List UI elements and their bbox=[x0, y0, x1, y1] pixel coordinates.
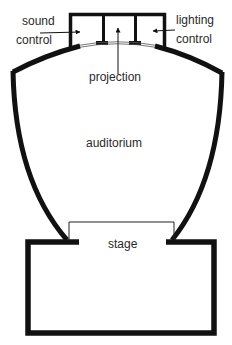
theatre-plan-diagram: sound control lighting control projectio… bbox=[0, 0, 232, 345]
lighting-control-label: control bbox=[176, 32, 212, 46]
sound-control-label: control bbox=[16, 33, 52, 47]
stage-label: stage bbox=[108, 237, 138, 251]
lighting-control-arrow bbox=[153, 30, 175, 31]
auditorium-label: auditorium bbox=[86, 136, 142, 150]
projection-label: projection bbox=[89, 70, 141, 84]
lighting-label: lighting bbox=[176, 13, 214, 27]
stage-house bbox=[28, 242, 214, 333]
sound-label: sound bbox=[22, 14, 55, 28]
